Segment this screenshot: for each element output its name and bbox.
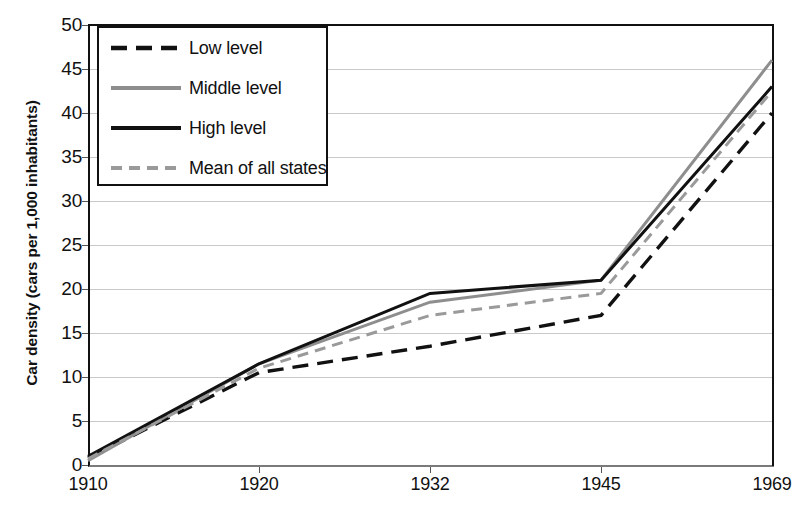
x-axis-tick-label: 1945 <box>581 474 620 495</box>
chart-figure: Car density (cars per 1,000 inhabitants)… <box>0 0 804 510</box>
legend-item: Low level <box>99 28 326 68</box>
legend-line-swatch <box>109 159 183 177</box>
x-axis-tick-label: 1920 <box>239 474 278 495</box>
x-axis-tick-label: 1932 <box>410 474 449 495</box>
legend-line-swatch <box>109 119 183 137</box>
legend-item-label: Mean of all states <box>189 158 326 179</box>
legend-item: Mean of all states <box>99 148 326 188</box>
x-axis-tick-label: 1969 <box>752 474 791 495</box>
legend-item-label: Low level <box>189 38 262 59</box>
legend-item-label: Middle level <box>189 78 282 99</box>
legend-item: High level <box>99 108 326 148</box>
legend-item-label: High level <box>189 118 266 139</box>
x-axis-tick-label: 1910 <box>68 474 107 495</box>
legend-line-swatch <box>109 79 183 97</box>
legend-line-swatch <box>109 39 183 57</box>
chart-legend: Low levelMiddle levelHigh levelMean of a… <box>97 26 328 186</box>
legend-item: Middle level <box>99 68 326 108</box>
